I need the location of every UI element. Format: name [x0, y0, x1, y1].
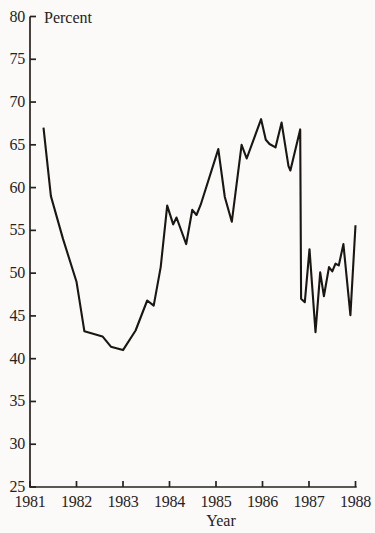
- x-tick-label: 1987: [294, 493, 325, 510]
- y-tick-label: 35: [10, 392, 26, 409]
- x-axis-title: Year: [206, 512, 236, 529]
- y-tick-label: 75: [10, 50, 26, 67]
- x-tick-label: 1981: [15, 493, 46, 510]
- figure-page: 2530354045505560657075801981198219831984…: [0, 0, 375, 533]
- y-axis-title: Percent: [44, 9, 93, 26]
- y-tick-label: 70: [10, 93, 26, 110]
- x-tick-label: 1988: [340, 493, 371, 510]
- y-tick-label: 45: [10, 307, 26, 324]
- y-tick-label: 30: [10, 435, 26, 452]
- y-tick-label: 65: [10, 136, 26, 153]
- y-tick-label: 80: [10, 8, 26, 25]
- x-tick-label: 1983: [108, 493, 139, 510]
- x-tick-label: 1986: [247, 493, 278, 510]
- y-tick-label: 60: [10, 179, 26, 196]
- y-tick-label: 40: [10, 350, 26, 367]
- y-tick-label: 50: [10, 264, 26, 281]
- x-tick-label: 1985: [201, 493, 232, 510]
- axes: 2530354045505560657075801981198219831984…: [10, 8, 372, 510]
- x-tick-label: 1982: [61, 493, 92, 510]
- series: [44, 119, 356, 350]
- x-tick-label: 1984: [154, 493, 185, 510]
- data-line-percent: [44, 119, 356, 350]
- y-tick-label: 55: [10, 221, 26, 238]
- percent-by-year-line-chart: 2530354045505560657075801981198219831984…: [0, 0, 375, 533]
